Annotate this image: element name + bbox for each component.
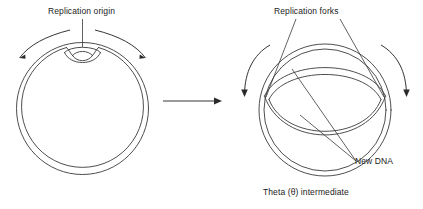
fork-arrowhead-right-theta	[403, 90, 410, 98]
replication-bubble-upper-arc-inner-right	[269, 74, 381, 99]
label-new-dna: New DNA	[355, 156, 393, 166]
caption-theta-intermediate: Theta (θ) intermediate	[263, 187, 349, 197]
fork-arrow-left-theta	[245, 45, 271, 94]
label-replication-forks: Replication forks	[274, 6, 339, 16]
stage-initiation-group	[17, 43, 149, 175]
fork-arrowhead-left-theta	[241, 90, 248, 98]
leader-line-fork-left	[266, 19, 296, 97]
replication-bubble-lower-arc-inner-right	[269, 100, 381, 132]
fork-arrow-right-initiation	[95, 30, 146, 58]
fork-arrow-right-theta	[381, 45, 407, 94]
inner-dna-strand-left	[22, 48, 144, 168]
label-replication-origin: Replication origin	[48, 6, 115, 16]
replication-bubble-inner-lower-arc-left	[73, 56, 93, 61]
fork-arrow-left-initiation	[20, 30, 71, 58]
dna-replication-diagram	[0, 0, 423, 209]
replication-bubble-upper-arc-right	[265, 68, 386, 97]
transition-arrow	[163, 98, 222, 105]
leader-lines-new-dna	[292, 69, 356, 161]
replication-bubble-inner-arc-left	[73, 51, 93, 55]
replication-bubble-lower-arc-right	[265, 96, 386, 135]
leader-line-fork-right	[340, 19, 384, 97]
leader-line-new-dna-upper	[292, 69, 356, 161]
leader-line-new-dna-lower	[300, 115, 356, 161]
